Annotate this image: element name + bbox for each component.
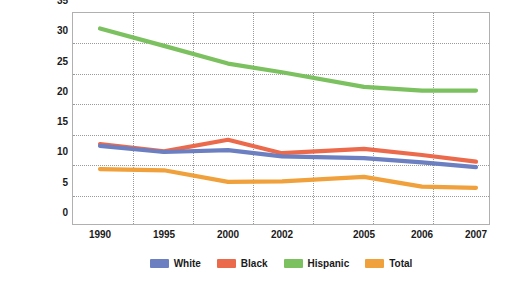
legend-label-black: Black [241,258,268,269]
y-tick-5: 5 [42,177,68,188]
y-tick-15: 15 [42,116,68,127]
y-tick-35: 35 [42,0,68,6]
series-line-hispanic [100,29,476,91]
y-tick-10: 10 [42,146,68,157]
x-tick-2006: 2006 [392,229,452,240]
chart-legend: White Black Hispanic Total [72,258,490,269]
x-tick-1995: 1995 [134,229,194,240]
legend-item-white: White [150,258,201,269]
x-tick-2005: 2005 [334,229,394,240]
y-tick-0: 0 [42,207,68,218]
legend-label-hispanic: Hispanic [308,258,350,269]
legend-item-total: Total [365,258,412,269]
legend-swatch-hispanic [284,259,303,268]
legend-label-white: White [174,258,201,269]
x-tick-1990: 1990 [70,229,130,240]
y-axis-tick-labels: 0 5 10 15 20 25 30 35 [36,0,68,288]
legend-swatch-total [365,259,384,268]
x-tick-2007: 2007 [446,229,506,240]
legend-swatch-white [150,259,169,268]
x-tick-2002: 2002 [252,229,312,240]
x-tick-2000: 2000 [198,229,258,240]
dropout-rate-line-chart: Dropout Rate (percent) 0 5 10 15 20 25 3… [0,0,506,288]
y-tick-25: 25 [42,56,68,67]
series-lines [72,12,490,225]
legend-label-total: Total [389,258,412,269]
y-tick-20: 20 [42,86,68,97]
legend-item-hispanic: Hispanic [284,258,350,269]
legend-item-black: Black [217,258,268,269]
series-line-total [100,169,476,188]
y-tick-30: 30 [42,25,68,36]
legend-swatch-black [217,259,236,268]
